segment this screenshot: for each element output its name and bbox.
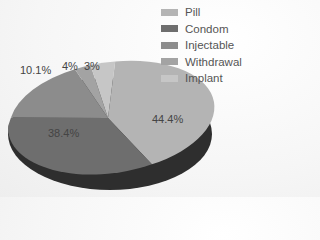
legend-item-implant: Implant [161,70,242,87]
legend-label: Condom [185,23,228,35]
legend-label: Pill [185,6,200,18]
legend-item-withdrawal: Withdrawal [161,54,242,71]
legend-label: Injectable [185,39,234,51]
legend-item-condom: Condom [161,21,242,38]
label-withdrawal: 4% [62,60,78,72]
label-injectable: 10.1% [20,64,51,76]
legend-item-pill: Pill [161,4,242,21]
label-implant: 3% [84,60,100,72]
legend-swatch [161,42,178,49]
legend-swatch [161,25,178,32]
legend-item-injectable: Injectable [161,37,242,54]
legend-swatch [161,58,178,65]
legend-swatch [161,9,178,16]
label-pill: 44.4% [152,113,183,125]
pie-chart: 44.4% 38.4% 10.1% 4% 3% [0,0,317,197]
legend-label: Implant [185,72,223,84]
legend-swatch [161,75,178,82]
chart-legend: Pill Condom Injectable Withdrawal Implan… [161,4,242,87]
legend-label: Withdrawal [185,56,242,68]
label-condom: 38.4% [48,127,79,139]
